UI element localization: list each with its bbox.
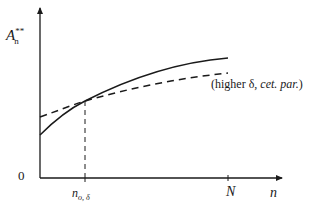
tick-label-intersection: no, δ	[72, 186, 90, 202]
y-axis-label: A**n	[6, 26, 19, 46]
chart-canvas	[0, 0, 314, 210]
solid-curve	[40, 58, 228, 135]
tick-label-N: N	[226, 184, 235, 200]
origin-label: 0	[18, 168, 25, 184]
dashed-curve-annotation: (higher δ, cet. par.)	[211, 77, 303, 92]
x-axis-label: n	[270, 185, 277, 201]
